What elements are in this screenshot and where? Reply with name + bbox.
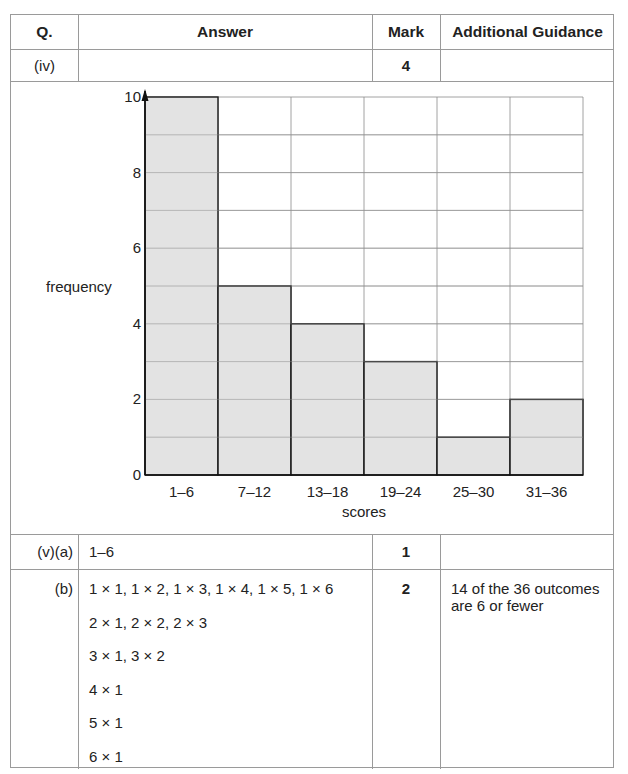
frequency-bar-chart: 02468101–67–1213–1819–2425–3031–36scores… xyxy=(0,0,628,774)
x-tick-label: 19–24 xyxy=(380,483,422,500)
x-tick-label: 7–12 xyxy=(238,483,271,500)
x-tick-label: 1–6 xyxy=(169,483,194,500)
y-axis-title: frequency xyxy=(46,278,112,295)
histogram-bar xyxy=(364,362,437,475)
x-tick-label: 25–30 xyxy=(453,483,495,500)
y-tick-label: 4 xyxy=(133,315,141,332)
y-tick-label: 2 xyxy=(133,390,141,407)
y-tick-label: 0 xyxy=(133,466,141,483)
x-tick-label: 31–36 xyxy=(526,483,568,500)
histogram-bar xyxy=(218,286,291,475)
y-tick-label: 6 xyxy=(133,239,141,256)
y-tick-label: 10 xyxy=(124,88,141,105)
x-tick-label: 13–18 xyxy=(307,483,349,500)
y-tick-label: 8 xyxy=(133,164,141,181)
histogram-bar xyxy=(437,437,510,475)
y-axis-arrow-icon xyxy=(142,89,149,101)
x-axis-title: scores xyxy=(342,503,386,520)
